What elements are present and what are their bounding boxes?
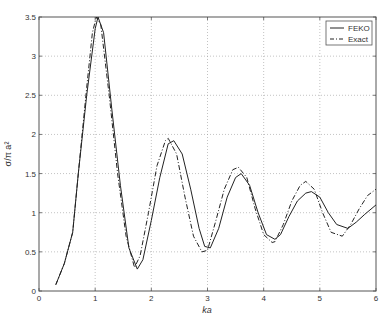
x-tick-label: 5 [318,294,323,303]
x-tick-label: 3 [205,294,210,303]
x-tick-label: 2 [149,294,154,303]
x-axis-label: ka [202,305,212,315]
y-tick-label: 1 [32,209,37,218]
x-tick-label: 1 [93,294,98,303]
chart-canvas: 012345600.511.522.533.5 ka σ/π a² FEKO E… [0,0,389,320]
x-tick-label: 6 [374,294,379,303]
y-tick-label: 0 [32,287,37,296]
y-tick-label: 1.5 [25,170,37,179]
data-series [56,17,376,285]
y-tick-label: 2 [32,130,37,139]
legend-label-exact: Exact [348,35,369,44]
y-tick-label: 3.5 [25,13,37,22]
legend-label-feko: FEKO [348,24,370,33]
axis-ticks: 012345600.511.522.533.5 [25,13,379,303]
legend: FEKO Exact [326,21,372,45]
x-tick-label: 4 [261,294,266,303]
y-axis-label: σ/π a² [3,142,13,167]
series-line-feko [56,17,376,285]
y-tick-label: 0.5 [25,248,37,257]
series-line-exact [56,17,376,285]
x-tick-label: 0 [37,294,42,303]
y-tick-label: 3 [32,52,37,61]
y-tick-label: 2.5 [25,91,37,100]
